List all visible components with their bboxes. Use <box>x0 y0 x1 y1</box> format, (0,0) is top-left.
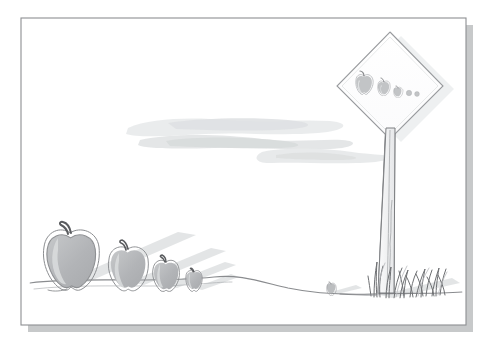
sign-dot-2 <box>415 92 420 97</box>
apple-4 <box>186 268 202 291</box>
illustration-canvas: Apple Sequence Roadside Illustration App… <box>0 0 493 353</box>
sign-dot-1 <box>406 90 411 95</box>
scene-svg <box>0 0 493 353</box>
